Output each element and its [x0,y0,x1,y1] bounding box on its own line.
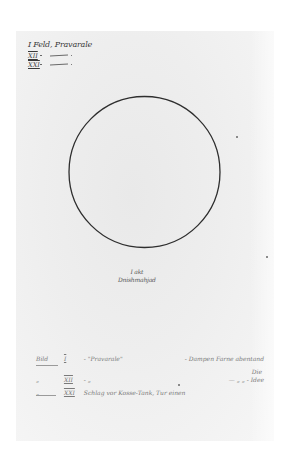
note-line: „ XXI Schlag vor Kosse-Tank, Tur einen [36,389,276,402]
note-line: Bild I - "Pravarale" - Dampen Farne aben… [36,355,276,368]
roman-numeral-list: XII XXI [28,51,72,69]
caption-line-2: Dnishmahjad [118,276,156,284]
roman-numeral: XXI [28,61,38,69]
note-label: „ [36,376,62,383]
ditto-dash [49,64,67,66]
note-right-text: — „ „ - Idee [229,376,264,383]
underline-rule [36,395,56,396]
note-numeral: XII [64,376,78,383]
caption-line-1: I akt [118,268,156,276]
note-right-text: - Dampen Farne abentand [185,355,264,362]
dot-mark [40,55,42,57]
note-subline: Die [36,368,276,376]
dot-mark [40,64,42,66]
note-numeral: XXI [64,389,78,396]
note-text: - "Pravarale" [84,355,123,362]
underline-rule [36,365,58,366]
scanned-page: I Feld, Pravarale XII XXI I akt Dnishmah… [0,0,289,450]
note-line: „ XII - „ — „ „ - Idee [36,376,276,389]
note-numeral: I [64,355,78,362]
paper-speck [236,136,238,138]
note-text: - „ [84,376,91,383]
bottom-notes: Bild I - "Pravarale" - Dampen Farne aben… [36,355,276,402]
note-text: Schlag vor Kosse-Tank, Tur einen [84,389,186,396]
dot-mark [71,55,73,57]
paper-speck [266,256,268,258]
note-label: Bild [36,355,62,362]
figure-caption: I akt Dnishmahjad [118,268,156,284]
header-note: I Feld, Pravarale [28,40,92,49]
ditto-dash [49,55,67,57]
roman-numeral: XII [28,52,38,60]
roman-list-item: XII [28,51,72,60]
roman-list-item: XXI [28,60,72,69]
dot-mark [71,64,73,66]
